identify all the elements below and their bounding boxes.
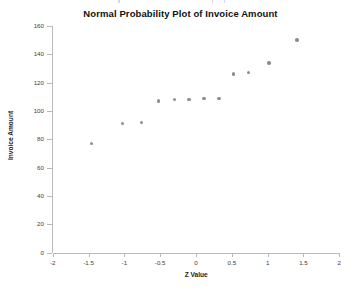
y-axis-tick-label: 0 <box>18 249 44 256</box>
y-axis-tick <box>47 139 52 140</box>
data-point <box>295 38 298 41</box>
y-axis-tick <box>47 54 52 55</box>
x-axis-tick-label: -1 <box>109 259 139 266</box>
y-axis-tick-label: 60 <box>18 164 44 171</box>
x-axis-tick <box>303 253 304 257</box>
y-axis-tick <box>47 253 52 254</box>
x-axis-tick-label: 0.5 <box>217 259 247 266</box>
y-axis-tick <box>47 196 52 197</box>
y-axis-tick-label: 120 <box>18 79 44 86</box>
top-edge-artifact <box>224 0 225 3</box>
x-axis-tick <box>268 253 269 257</box>
top-edge-artifact <box>119 0 120 3</box>
y-axis-tick-label: 20 <box>18 220 44 227</box>
y-axis-tick <box>47 168 52 169</box>
x-axis-tick-label: -2 <box>38 259 68 266</box>
data-point <box>202 97 205 100</box>
x-axis-tick <box>160 253 161 257</box>
x-axis-tick-label: 1 <box>253 259 283 266</box>
y-axis-tick <box>47 224 52 225</box>
x-axis-tick-label: 2 <box>324 259 354 266</box>
y-axis-tick-label: 160 <box>18 22 44 29</box>
data-point <box>267 61 270 64</box>
x-axis-tick <box>196 253 197 257</box>
y-axis-tick <box>47 26 52 27</box>
x-axis-title: Z Value <box>53 271 340 278</box>
x-axis-tick <box>124 253 125 257</box>
y-axis-tick-label: 40 <box>18 192 44 199</box>
y-axis-tick-label: 80 <box>18 135 44 142</box>
chart-title: Normal Probability Plot of Invoice Amoun… <box>0 8 361 19</box>
data-point <box>217 97 220 100</box>
data-point <box>232 72 235 75</box>
y-axis-tick-label: 140 <box>18 50 44 57</box>
x-axis-tick <box>89 253 90 257</box>
plot-area <box>53 26 340 253</box>
y-axis-tick-label: 100 <box>18 107 44 114</box>
normal-probability-plot: Normal Probability Plot of Invoice Amoun… <box>0 0 361 295</box>
top-edge-artifact <box>212 0 213 3</box>
x-axis-tick-label: -1.5 <box>74 259 104 266</box>
x-axis-tick <box>339 253 340 257</box>
x-axis-tick <box>232 253 233 257</box>
y-axis-tick <box>47 111 52 112</box>
y-axis-title: Invoice Amount <box>7 106 14 166</box>
x-axis-tick-label: -0.5 <box>145 259 175 266</box>
x-axis-tick-label: 1.5 <box>288 259 318 266</box>
x-axis-tick-label: 0 <box>181 259 211 266</box>
data-point <box>187 98 190 101</box>
x-axis-tick <box>53 253 54 257</box>
y-axis-tick <box>47 83 52 84</box>
